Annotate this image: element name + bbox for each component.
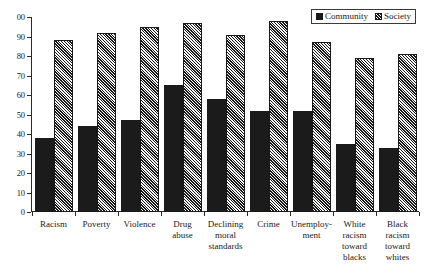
bar-society: [312, 42, 331, 212]
bar-society: [140, 27, 159, 212]
bar-society: [54, 40, 73, 212]
y-tick-label: 30: [17, 149, 25, 158]
x-axis-label: Crime: [247, 219, 290, 277]
bar-group: [75, 17, 118, 212]
x-axis-label: Drug abuse: [161, 219, 204, 277]
bar-society: [269, 21, 288, 212]
x-axis-ticks: [32, 212, 419, 216]
bar-group: [118, 17, 161, 212]
plot-area: [32, 17, 419, 212]
bar-community: [121, 120, 140, 212]
x-axis-labels: RacismPovertyViolenceDrug abuseDeclining…: [32, 219, 419, 277]
bar-society: [97, 33, 116, 212]
x-axis-label: Racism: [32, 219, 75, 277]
bar-community: [250, 111, 269, 212]
x-axis-label: Declining moral standards: [204, 219, 247, 277]
x-tick-mark: [118, 212, 119, 216]
y-tick-label: 40: [17, 130, 25, 139]
bar-society: [183, 23, 202, 212]
x-tick-mark: [75, 212, 76, 216]
y-tick-mark: [27, 212, 31, 213]
legend-label: Community: [325, 11, 368, 21]
bar-community: [379, 148, 398, 212]
bar-society: [226, 35, 245, 212]
y-tick-label: 90: [17, 32, 25, 41]
bar-group: [376, 17, 419, 212]
y-tick-label: 70: [17, 71, 25, 80]
bar-group: [32, 17, 75, 212]
bar-group: [204, 17, 247, 212]
y-tick-label: 00: [17, 13, 25, 22]
x-tick-mark: [419, 212, 420, 216]
bar-chart: 009080706050403020100 RacismPovertyViole…: [0, 0, 425, 278]
y-tick-label: 80: [17, 52, 25, 61]
bar-group: [161, 17, 204, 212]
bar-group: [333, 17, 376, 212]
x-axis-label: Black racism toward whites: [376, 219, 419, 277]
solid-black-swatch: [316, 13, 323, 20]
bar-community: [207, 99, 226, 212]
bar-community: [164, 85, 183, 212]
legend-entry: Society: [375, 11, 411, 21]
legend-label: Society: [384, 11, 411, 21]
y-tick-label: 60: [17, 91, 25, 100]
bar-society: [398, 54, 417, 212]
bar-community: [35, 138, 54, 212]
x-tick-mark: [247, 212, 248, 216]
y-tick-label: 0: [21, 208, 25, 217]
x-axis-label: Violence: [118, 219, 161, 277]
chart-legend: CommunitySociety: [311, 9, 416, 24]
x-tick-mark: [333, 212, 334, 216]
y-axis: 009080706050403020100: [0, 0, 31, 212]
x-tick-mark: [376, 212, 377, 216]
legend-entry: Community: [316, 11, 368, 21]
hatched-swatch: [375, 13, 382, 20]
bar-society: [355, 58, 374, 212]
x-tick-mark: [32, 212, 33, 216]
y-tick-label: 20: [17, 169, 25, 178]
x-tick-mark: [290, 212, 291, 216]
x-axis-label: Unemploy- ment: [290, 219, 333, 277]
x-axis-label: White racism toward blacks: [333, 219, 376, 277]
bar-community: [336, 144, 355, 212]
x-axis-label: Poverty: [75, 219, 118, 277]
x-tick-mark: [161, 212, 162, 216]
x-tick-mark: [204, 212, 205, 216]
bar-group: [247, 17, 290, 212]
y-tick-label: 10: [17, 188, 25, 197]
bar-community: [78, 126, 97, 212]
y-tick-label: 50: [17, 110, 25, 119]
bar-group: [290, 17, 333, 212]
bar-community: [293, 111, 312, 212]
